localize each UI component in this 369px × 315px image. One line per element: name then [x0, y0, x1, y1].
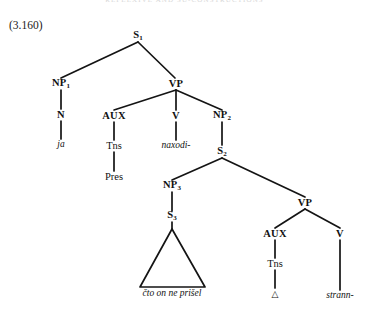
figure-canvas: REFLEXIVE AND SU-CONSTRUCTIONS (3.160)	[0, 0, 369, 315]
node-delta-empty: △	[272, 290, 279, 299]
node-pres: Pres	[105, 172, 123, 183]
terminal-cto-on-ne-prisel: čto on ne prišel	[143, 289, 202, 299]
node-s3: S3	[167, 210, 177, 222]
node-s2: S2	[217, 146, 227, 158]
node-np2: NP2	[213, 110, 231, 122]
node-aux1: AUX	[102, 111, 125, 122]
node-n1: N	[57, 110, 65, 121]
tree-branch-lines	[0, 0, 369, 315]
node-v2: V	[336, 229, 344, 240]
node-aux2: AUX	[263, 229, 286, 240]
node-s1: S1	[133, 30, 143, 42]
node-np1: NP1	[52, 78, 70, 90]
terminal-strann: strann-	[326, 291, 353, 301]
node-vp1: VP	[169, 79, 183, 90]
node-vp2: VP	[298, 198, 312, 209]
node-np3: NP3	[163, 180, 181, 192]
node-tns1: Tns	[106, 141, 122, 152]
node-tns2: Tns	[267, 259, 283, 270]
node-v1: V	[172, 111, 180, 122]
terminal-naxodi: naxodi-	[161, 141, 190, 151]
abbreviation-triangle	[140, 229, 205, 287]
terminal-ja: ja	[57, 140, 64, 150]
